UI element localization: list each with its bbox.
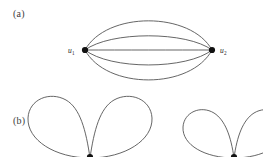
vertex-label-u1-sub: 1 <box>72 50 75 56</box>
loop-left-petal-1 <box>28 96 90 157</box>
edge-parallel-2 <box>85 36 212 50</box>
vertex-label-u2-sub: 2 <box>224 50 227 56</box>
vertex-bouquet-right <box>231 154 237 157</box>
vertex-u1 <box>82 47 88 53</box>
figure-container: (a) (b) u1 u2 <box>0 0 263 157</box>
vertex-label-u1: u1 <box>68 47 74 55</box>
panel-a-graph <box>82 21 215 80</box>
vertex-u2 <box>209 47 215 53</box>
panel-b-graph <box>28 96 263 157</box>
loop-left-petal-2 <box>90 96 152 157</box>
figure-canvas <box>0 0 263 157</box>
vertex-bouquet-left <box>87 154 93 157</box>
panel-label-b: (b) <box>13 116 25 126</box>
loop-right-petal-2 <box>234 110 263 157</box>
vertex-label-u2: u2 <box>220 47 226 55</box>
loop-right-petal-1 <box>183 110 234 157</box>
edge-parallel-4 <box>85 50 212 65</box>
panel-label-a: (a) <box>13 9 25 19</box>
